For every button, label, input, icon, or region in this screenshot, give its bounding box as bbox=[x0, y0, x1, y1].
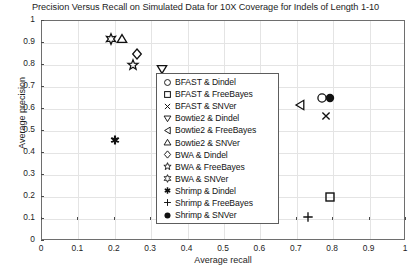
data-point[interactable] bbox=[299, 208, 317, 226]
y-axis-tick bbox=[41, 218, 44, 219]
y-axis-tick bbox=[41, 108, 44, 109]
legend-item-label: Bowtie2 & FreeBayes bbox=[175, 125, 256, 135]
legend-item[interactable]: BFAST & FreeBayes bbox=[160, 88, 275, 100]
y-axis-tick bbox=[41, 42, 44, 43]
x-axis-tick-label: 0.8 bbox=[317, 243, 347, 253]
y-axis-tick bbox=[41, 196, 44, 197]
gridline-vertical bbox=[78, 21, 79, 239]
diamond-open-icon bbox=[160, 149, 175, 161]
legend[interactable]: BFAST & DindelBFAST & FreeBayesBFAST & S… bbox=[156, 73, 279, 224]
legend-item-label: Shrimp & Dindel bbox=[175, 186, 236, 196]
data-point[interactable] bbox=[321, 89, 339, 107]
gridline-horizontal bbox=[42, 65, 404, 66]
legend-item[interactable]: BFAST & SNVer bbox=[160, 100, 275, 112]
y-axis-tick-label: 0.2 bbox=[9, 190, 35, 200]
x-axis-tick bbox=[150, 217, 151, 220]
legend-item-label: Shrimp & SNVer bbox=[175, 210, 236, 220]
x-axis-tick bbox=[332, 217, 333, 220]
x-axis-tick-label: 0.1 bbox=[62, 243, 92, 253]
legend-item-label: Bowtie2 & Dindel bbox=[175, 113, 239, 123]
x-axis-tick-label: 0.2 bbox=[99, 243, 129, 253]
legend-item[interactable]: Shrimp & SNVer bbox=[160, 209, 275, 221]
y-axis-tick bbox=[41, 86, 44, 87]
x-axis-tick bbox=[369, 217, 370, 220]
gridline-vertical bbox=[370, 21, 371, 239]
hexagram-open-icon bbox=[160, 173, 175, 185]
y-axis-tick bbox=[41, 174, 44, 175]
legend-item-label: BWA & FreeBayes bbox=[175, 162, 245, 172]
y-axis-tick bbox=[41, 130, 44, 131]
data-point[interactable] bbox=[102, 30, 120, 48]
gridline-vertical bbox=[151, 21, 152, 239]
legend-item[interactable]: BFAST & Dindel bbox=[160, 76, 275, 88]
gridline-horizontal bbox=[42, 43, 404, 44]
y-axis-tick bbox=[41, 240, 44, 241]
x-axis-tick-label: 0.5 bbox=[208, 243, 238, 253]
legend-item-label: BFAST & FreeBayes bbox=[175, 89, 253, 99]
cross-x-icon bbox=[160, 100, 175, 112]
gridline-vertical bbox=[333, 21, 334, 239]
data-point[interactable] bbox=[124, 56, 142, 74]
data-point[interactable] bbox=[321, 188, 339, 206]
y-axis-tick-label: 0.1 bbox=[9, 212, 35, 222]
chart-figure: Precision Versus Recall on Simulated Dat… bbox=[0, 0, 411, 270]
x-axis-tick-label: 0 bbox=[26, 243, 56, 253]
triangle-up-open-icon bbox=[160, 137, 175, 149]
x-axis-tick bbox=[296, 217, 297, 220]
legend-item[interactable]: Bowtie2 & FreeBayes bbox=[160, 124, 275, 136]
x-axis-label: Average recall bbox=[41, 255, 405, 265]
legend-item[interactable]: BWA & FreeBayes bbox=[160, 161, 275, 173]
circle-filled-icon bbox=[160, 209, 175, 221]
legend-item[interactable]: Bowtie2 & Dindel bbox=[160, 112, 275, 124]
circle-open-icon bbox=[160, 76, 175, 88]
x-axis-tick bbox=[114, 217, 115, 220]
legend-item[interactable]: BWA & Dindel bbox=[160, 149, 275, 161]
legend-item-label: BWA & SNVer bbox=[175, 174, 228, 184]
square-open-icon bbox=[160, 88, 175, 100]
y-axis-tick-label: 1 bbox=[9, 14, 35, 24]
legend-item-label: BFAST & Dindel bbox=[175, 77, 236, 87]
x-axis-tick-label: 0.7 bbox=[281, 243, 311, 253]
data-point[interactable] bbox=[317, 107, 335, 125]
x-axis-tick-label: 0.3 bbox=[135, 243, 165, 253]
data-point[interactable] bbox=[291, 96, 309, 114]
gridline-vertical bbox=[297, 21, 298, 239]
x-axis-tick-label: 0.4 bbox=[172, 243, 202, 253]
legend-item[interactable]: Shrimp & Dindel bbox=[160, 185, 275, 197]
page-title: Precision Versus Recall on Simulated Dat… bbox=[0, 2, 411, 12]
y-axis-tick bbox=[41, 20, 44, 21]
triangle-left-open-icon bbox=[160, 124, 175, 136]
y-axis-tick bbox=[41, 152, 44, 153]
pentagram-open-icon bbox=[160, 161, 175, 173]
legend-item[interactable]: BWA & SNVer bbox=[160, 173, 275, 185]
legend-item-label: Shrimp & FreeBayes bbox=[175, 198, 253, 208]
x-axis-tick bbox=[405, 217, 406, 220]
y-axis-label: Average precision bbox=[17, 43, 27, 183]
x-axis-tick-label: 1 bbox=[390, 243, 411, 253]
data-point[interactable] bbox=[106, 131, 124, 149]
legend-item[interactable]: Bowtie2 & SNVer bbox=[160, 136, 275, 148]
x-axis-tick-label: 0.9 bbox=[354, 243, 384, 253]
legend-item-label: Bowtie2 & SNVer bbox=[175, 138, 240, 148]
triangle-down-open-icon bbox=[160, 112, 175, 124]
x-axis-tick-label: 0.6 bbox=[244, 243, 274, 253]
legend-item-label: BWA & Dindel bbox=[175, 150, 228, 160]
asterisk-filled-icon bbox=[160, 185, 175, 197]
x-axis-tick bbox=[77, 217, 78, 220]
legend-item[interactable]: Shrimp & FreeBayes bbox=[160, 197, 275, 209]
legend-item-label: BFAST & SNVer bbox=[175, 101, 236, 111]
y-axis-tick bbox=[41, 64, 44, 65]
y-axis-tick-label: 0 bbox=[9, 234, 35, 244]
plus-icon bbox=[160, 197, 175, 209]
